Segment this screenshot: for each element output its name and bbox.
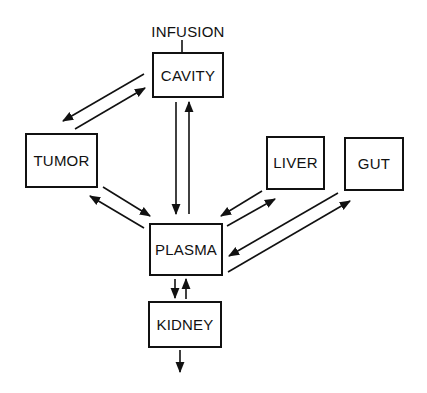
node-kidney: KIDNEY [149, 302, 221, 347]
arrow-gut-to-plasma [229, 193, 338, 256]
node-liver-label: LIVER [273, 154, 317, 171]
compartment-diagram: INFUSION CAVITY TUMOR LIVER GUT PLASMA [0, 0, 427, 393]
node-cavity: CAVITY [153, 53, 223, 97]
arrow-plasma-to-tumor [90, 196, 144, 228]
node-cavity-label: CAVITY [161, 67, 215, 84]
arrow-liver-to-plasma [221, 191, 262, 216]
infusion-label: INFUSION [151, 23, 224, 40]
node-gut: GUT [345, 138, 403, 190]
arrow-cavity-to-tumor [63, 74, 144, 121]
node-tumor-label: TUMOR [34, 152, 90, 169]
arrow-plasma-to-liver [227, 199, 275, 226]
node-tumor: TUMOR [26, 134, 97, 187]
node-kidney-label: KIDNEY [156, 316, 213, 333]
node-plasma-label: PLASMA [155, 241, 217, 258]
node-gut-label: GUT [358, 155, 390, 172]
node-plasma: PLASMA [150, 224, 222, 275]
node-liver: LIVER [267, 137, 324, 189]
arrow-plasma-to-gut [228, 201, 350, 272]
arrow-tumor-to-plasma [103, 187, 150, 216]
